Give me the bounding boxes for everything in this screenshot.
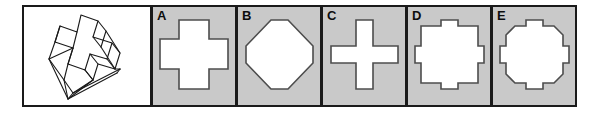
option-letter-d: D	[412, 9, 421, 22]
stem-figure-panel	[22, 5, 152, 107]
option-letter-b: B	[242, 9, 251, 22]
test-item-strip: A B C D E	[0, 0, 598, 116]
option-panel-b[interactable]: B	[236, 5, 322, 107]
option-panel-a[interactable]: A	[151, 5, 237, 107]
option-panel-c[interactable]: C	[321, 5, 407, 107]
3d-cross-prism-figure	[24, 7, 150, 105]
option-letter-a: A	[157, 9, 166, 22]
option-panel-d[interactable]: D	[406, 5, 492, 107]
option-letter-c: C	[327, 9, 336, 22]
option-letter-e: E	[497, 9, 506, 22]
option-panel-e[interactable]: E	[491, 5, 577, 107]
